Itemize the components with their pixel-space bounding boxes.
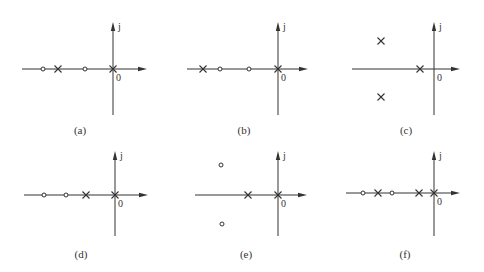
imag-axis-label: j	[117, 21, 121, 32]
panel-e: j0	[195, 150, 307, 236]
origin-label: 0	[437, 72, 442, 83]
zero-marker-icon	[247, 67, 251, 71]
zero-marker-icon	[41, 67, 45, 71]
origin-label: 0	[437, 196, 442, 207]
pole-marker-icon	[378, 94, 385, 101]
zero-marker-icon	[220, 222, 224, 226]
imag-axis-label: j	[119, 150, 123, 161]
pole-marker-icon	[378, 38, 385, 45]
imag-axis-arrow-icon	[113, 151, 117, 160]
panel-caption-e: (e)	[240, 248, 252, 260]
panel-caption-d: (d)	[75, 248, 88, 260]
real-axis-arrow-icon	[139, 193, 148, 197]
pole-zero-figure: j0j0j0j0j0j0	[0, 0, 484, 272]
real-axis-arrow-icon	[138, 67, 147, 71]
real-axis-arrow-icon	[299, 67, 308, 71]
imag-axis-arrow-icon	[276, 22, 280, 31]
real-axis-arrow-icon	[298, 193, 307, 197]
panel-caption-a: (a)	[74, 124, 86, 136]
panel-a: j0	[22, 21, 147, 115]
zero-marker-icon	[218, 67, 222, 71]
origin-label: 0	[281, 72, 286, 83]
panel-c: j0	[352, 21, 460, 115]
zero-marker-icon	[83, 67, 87, 71]
panel-b: j0	[187, 21, 308, 115]
real-axis-arrow-icon	[451, 191, 460, 195]
origin-label: 0	[281, 198, 286, 209]
imag-axis-arrow-icon	[432, 22, 436, 31]
panel-caption-f: (f)	[400, 248, 411, 260]
zero-marker-icon	[42, 193, 46, 197]
imag-axis-label: j	[282, 21, 286, 32]
imag-axis-arrow-icon	[276, 151, 280, 160]
zero-marker-icon	[361, 191, 365, 195]
panel-caption-c: (c)	[400, 124, 412, 136]
imag-axis-arrow-icon	[111, 22, 115, 31]
zero-marker-icon	[219, 163, 223, 167]
imag-axis-label: j	[438, 150, 442, 161]
real-axis-arrow-icon	[451, 67, 460, 71]
zero-marker-icon	[390, 191, 394, 195]
panel-f: j0	[346, 150, 460, 236]
origin-label: 0	[118, 198, 123, 209]
imag-axis-label: j	[438, 21, 442, 32]
panel-d: j0	[24, 150, 148, 236]
imag-axis-label: j	[282, 150, 286, 161]
zero-marker-icon	[64, 193, 68, 197]
imag-axis-arrow-icon	[432, 151, 436, 160]
origin-label: 0	[116, 72, 121, 83]
panel-caption-b: (b)	[238, 124, 251, 136]
